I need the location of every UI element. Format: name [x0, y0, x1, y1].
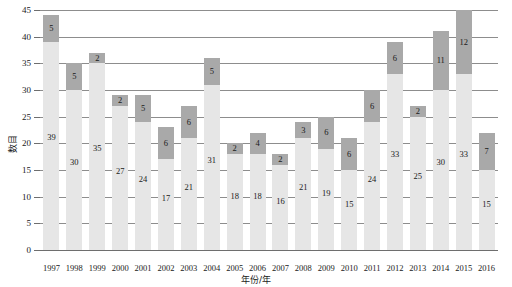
x-axis-line [40, 250, 498, 251]
bar-value-label: 18 [253, 192, 262, 201]
y-tick-label: 35 [22, 58, 31, 68]
bar-segment-light: 33 [387, 74, 403, 250]
bar-value-label: 12 [459, 38, 468, 47]
x-tick-label: 2014 [432, 263, 449, 273]
y-tick-label: 0 [27, 245, 32, 255]
x-tick-label: 2015 [455, 263, 472, 273]
bar-value-label: 2 [118, 96, 122, 105]
bar-segment-dark: 3 [295, 122, 311, 138]
x-tick-label: 2011 [364, 263, 381, 273]
bar-segment-light: 24 [364, 122, 380, 250]
bar-column: 156 [341, 10, 357, 250]
bar-column: 213 [295, 10, 311, 250]
bar-value-label: 6 [370, 102, 374, 111]
bar-segment-dark: 5 [135, 95, 151, 122]
x-tick-label: 2004 [203, 263, 220, 273]
bar-segment-dark: 5 [66, 63, 82, 90]
bar-chart: 数目 051015202530354045 395305352272245176… [0, 0, 512, 287]
x-tick-label: 2005 [226, 263, 243, 273]
x-tick-label: 2007 [272, 263, 289, 273]
bar-segment-dark: 12 [456, 10, 472, 74]
x-tick-label: 2009 [318, 263, 335, 273]
bar-segment-dark: 4 [250, 133, 266, 154]
bar-value-label: 21 [185, 183, 194, 192]
bar-value-label: 11 [437, 56, 445, 65]
bar-value-label: 21 [299, 183, 308, 192]
bar-value-label: 6 [347, 150, 351, 159]
x-tick-label: 1998 [66, 263, 83, 273]
bar-value-label: 35 [93, 144, 102, 153]
y-tick-label: 20 [22, 138, 31, 148]
bar-value-label: 39 [47, 133, 56, 142]
bar-segment-dark: 5 [204, 58, 220, 85]
x-tick-label: 2006 [249, 263, 266, 273]
bar-column: 176 [158, 10, 174, 250]
bar-column: 252 [410, 10, 426, 250]
bar-value-label: 2 [233, 144, 237, 153]
y-tick-label: 25 [22, 112, 31, 122]
bar-value-label: 24 [139, 175, 148, 184]
bar-column: 352 [89, 10, 105, 250]
x-tick-label: 1999 [89, 263, 106, 273]
x-axis-title: 年份/年 [0, 273, 512, 286]
bar-segment-dark: 6 [181, 106, 197, 138]
bar-segment-light: 18 [250, 154, 266, 250]
x-tick-label: 2001 [135, 263, 152, 273]
y-tick-label: 15 [22, 165, 31, 175]
x-tick-label: 2010 [341, 263, 358, 273]
bar-value-label: 6 [164, 139, 168, 148]
bar-column: 3011 [433, 10, 449, 250]
bar-segment-dark: 6 [158, 127, 174, 159]
bar-segment-light: 24 [135, 122, 151, 250]
bar-value-label: 27 [116, 167, 125, 176]
bar-value-label: 33 [391, 150, 400, 159]
bar-column: 336 [387, 10, 403, 250]
bar-segment-light: 15 [479, 170, 495, 250]
bar-series-group: 3953053522722451762163151821841622131961… [40, 10, 498, 250]
bar-value-label: 17 [162, 194, 171, 203]
bar-value-label: 5 [210, 67, 214, 76]
bar-column: 315 [204, 10, 220, 250]
bar-column: 245 [135, 10, 151, 250]
bar-segment-dark: 2 [410, 106, 426, 117]
x-tick-label: 1997 [43, 263, 60, 273]
bar-column: 162 [272, 10, 288, 250]
bar-value-label: 6 [393, 54, 397, 63]
bar-segment-light: 21 [181, 138, 197, 250]
bar-segment-dark: 2 [89, 53, 105, 64]
bar-value-label: 25 [414, 172, 423, 181]
x-tick-label: 2013 [409, 263, 426, 273]
bar-value-label: 15 [345, 200, 354, 209]
bar-segment-light: 25 [410, 117, 426, 250]
bar-value-label: 31 [208, 156, 217, 165]
bar-value-label: 3 [301, 126, 305, 135]
bar-column: 395 [43, 10, 59, 250]
bar-segment-light: 30 [66, 90, 82, 250]
y-tick-label: 10 [22, 192, 31, 202]
bar-segment-light: 30 [433, 90, 449, 250]
y-axis-title: 数目 [6, 135, 19, 153]
bar-segment-dark: 2 [272, 154, 288, 165]
bar-column: 157 [479, 10, 495, 250]
bar-segment-dark: 5 [43, 15, 59, 42]
bar-column: 3312 [456, 10, 472, 250]
y-tick-label: 45 [22, 5, 31, 15]
bar-segment-light: 33 [456, 74, 472, 250]
bar-column: 182 [227, 10, 243, 250]
bar-segment-light: 31 [204, 85, 220, 250]
bar-segment-light: 19 [318, 149, 334, 250]
bar-value-label: 5 [49, 24, 53, 33]
bar-value-label: 16 [276, 197, 285, 206]
bar-value-label: 19 [322, 189, 331, 198]
x-tick-label: 2012 [386, 263, 403, 273]
bar-segment-dark: 6 [387, 42, 403, 74]
bar-value-label: 5 [72, 72, 76, 81]
bar-value-label: 2 [278, 155, 282, 164]
bar-value-label: 15 [482, 200, 491, 209]
bar-column: 184 [250, 10, 266, 250]
bar-value-label: 33 [459, 150, 468, 159]
bar-segment-dark: 7 [479, 133, 495, 170]
bar-value-label: 7 [484, 147, 488, 156]
x-tick-label: 2016 [478, 263, 495, 273]
bar-value-label: 6 [187, 118, 191, 127]
